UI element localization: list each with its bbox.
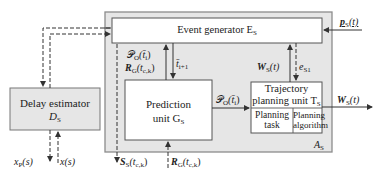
signal-e-s1: eS1 [299, 61, 311, 76]
signal-p-s: pS(t) [340, 16, 358, 31]
signal-r-g-lower: RG(tc,k) [171, 156, 201, 171]
signal-s-s: SS(tc,k) [120, 156, 147, 171]
signal-w-s-out: WS(t) [337, 94, 359, 109]
trajectory-planning-label: Trajectory planning unit TS [251, 83, 322, 110]
signal-p-o-mid: 𝒫O(t̄i) [216, 94, 239, 109]
planning-task-cell: Planning task [251, 110, 293, 130]
event-generator-label: Event generator ES [112, 24, 322, 39]
delay-estimator-label: Delay estimator DS [10, 97, 100, 127]
signal-x: x(s) [60, 156, 75, 167]
planning-algorithm-cell: Planning algorithm [293, 110, 322, 130]
outer-box-label: AS [314, 139, 324, 154]
signal-t-next: t̄i+1 [176, 58, 188, 73]
signal-r-g-upper: RG(tc,k) [125, 62, 155, 77]
signal-w-s-up: WS(t) [257, 61, 279, 76]
signal-x-p: xP(s) [14, 156, 33, 171]
prediction-unit-label: Prediction unit GS [125, 97, 212, 129]
